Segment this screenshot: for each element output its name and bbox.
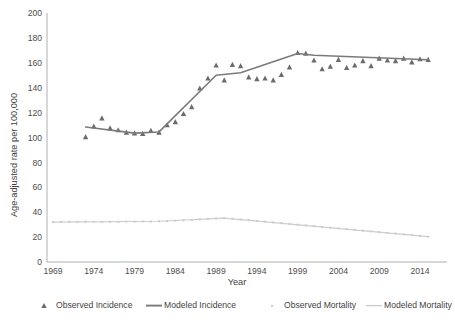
series-layer xyxy=(52,50,431,238)
data-point-triangle xyxy=(181,111,186,116)
axis-lines xyxy=(47,13,447,262)
data-point-triangle xyxy=(246,74,251,79)
x-tick-label: 1974 xyxy=(84,266,103,276)
data-point-triangle xyxy=(328,64,333,69)
data-point-triangle xyxy=(352,62,357,67)
data-point-triangle xyxy=(279,72,284,77)
x-tick-label: 1989 xyxy=(207,266,226,276)
data-point-triangle xyxy=(222,77,227,82)
data-point-triangle xyxy=(360,58,365,63)
data-point-triangle xyxy=(230,62,235,67)
y-tick-label: 200 xyxy=(28,8,43,18)
data-point-triangle xyxy=(205,75,210,80)
data-point-triangle xyxy=(262,75,267,80)
y-axis-tick-labels: 020406080100120140160180200 xyxy=(28,8,43,267)
x-tick-label: 1979 xyxy=(125,266,144,276)
chart-figure: Age-adjusted rate per 100,000 Year 02040… xyxy=(0,0,455,325)
legend-item-label: Modeled Mortality xyxy=(384,300,453,310)
legend-item: Modeled Mortality xyxy=(366,300,453,310)
data-point-triangle xyxy=(409,59,414,64)
x-tick-label: 2009 xyxy=(370,266,389,276)
x-tick-label: 2004 xyxy=(329,266,348,276)
chart-canvas: Age-adjusted rate per 100,000 Year 02040… xyxy=(0,0,455,325)
legend-triangle-icon xyxy=(41,303,46,308)
y-tick-label: 0 xyxy=(37,257,42,267)
y-tick-label: 60 xyxy=(32,182,42,192)
x-axis-tick-labels: 1969197419791984198919941999200420092014 xyxy=(43,266,429,276)
x-tick-label: 1999 xyxy=(288,266,307,276)
series-observed-mortality xyxy=(52,217,429,237)
legend-item: Observed Mortality xyxy=(271,300,357,310)
data-point-triangle xyxy=(173,119,178,124)
x-tick-label: 1969 xyxy=(43,266,62,276)
y-tick-label: 140 xyxy=(28,83,43,93)
x-axis-title: Year xyxy=(228,277,247,287)
y-tick-label: 160 xyxy=(28,58,43,68)
series-observed-incidence xyxy=(83,50,431,139)
data-point-triangle xyxy=(311,57,316,62)
legend-item: Modeled Incidence xyxy=(146,300,236,310)
legend-item: Observed Incidence xyxy=(41,300,132,310)
data-point-triangle xyxy=(287,64,292,69)
series-modeled-incidence xyxy=(86,53,429,133)
x-tick-label: 1994 xyxy=(247,266,266,276)
data-point-triangle xyxy=(189,104,194,109)
chart-legend: Observed IncidenceModeled IncidenceObser… xyxy=(41,300,452,310)
x-tick-label: 1984 xyxy=(166,266,185,276)
data-point-triangle xyxy=(336,57,341,62)
legend-item-label: Modeled Incidence xyxy=(164,300,236,310)
data-point-triangle xyxy=(238,63,243,68)
y-tick-label: 20 xyxy=(32,232,42,242)
data-point-triangle xyxy=(99,115,104,120)
legend-item-label: Observed Incidence xyxy=(56,300,133,310)
data-point-triangle xyxy=(254,76,259,81)
y-tick-label: 40 xyxy=(32,207,42,217)
data-point-triangle xyxy=(271,77,276,82)
data-point-triangle xyxy=(319,66,324,71)
y-tick-label: 180 xyxy=(28,33,43,43)
data-point-triangle xyxy=(83,134,88,139)
x-tick-label: 2014 xyxy=(410,266,429,276)
y-tick-label: 100 xyxy=(28,133,43,143)
legend-item-label: Observed Mortality xyxy=(284,300,357,310)
series-line xyxy=(86,53,429,133)
y-tick-label: 120 xyxy=(28,108,43,118)
legend-dot-icon xyxy=(271,305,273,307)
data-point-triangle xyxy=(213,62,218,67)
y-axis-title: Age-adjusted rate per 100,000 xyxy=(9,93,19,217)
data-point-triangle xyxy=(368,63,373,68)
y-tick-label: 80 xyxy=(32,158,42,168)
data-point-triangle xyxy=(344,65,349,70)
